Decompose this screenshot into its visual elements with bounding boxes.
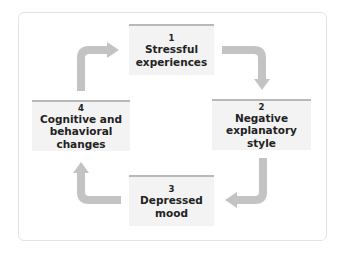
step-box-4: 4 Cognitive and behavioral changes <box>32 100 130 151</box>
arrow-3-to-4 <box>81 172 121 200</box>
step-number: 1 <box>169 33 175 43</box>
step-label: Stressful experiences <box>136 43 208 68</box>
step-box-2: 2 Negative explanatory style <box>212 99 311 150</box>
arrow-2-to-3 <box>236 158 263 200</box>
arrowhead-left-icon <box>225 192 237 208</box>
step-box-3: 3 Depressed mood <box>129 175 214 226</box>
step-box-1: 1 Stressful experiences <box>129 24 214 75</box>
step-label: Negative explanatory style <box>212 112 311 150</box>
arrowhead-right-icon <box>107 42 119 58</box>
arrow-4-to-1 <box>81 50 108 91</box>
arrowhead-up-icon <box>73 162 89 173</box>
step-label: Depressed mood <box>140 194 203 219</box>
step-number: 2 <box>259 102 265 112</box>
arrow-1-to-2 <box>222 50 262 80</box>
step-number: 3 <box>169 184 175 194</box>
step-number: 4 <box>78 103 84 113</box>
step-label: Cognitive and behavioral changes <box>32 113 130 151</box>
arrowhead-down-icon <box>254 79 270 90</box>
